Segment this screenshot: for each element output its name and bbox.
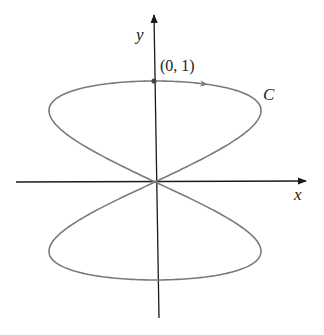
y-axis <box>154 15 159 318</box>
figure-canvas: y x (0, 1) C <box>0 0 324 335</box>
point-label: (0, 1) <box>160 57 195 75</box>
x-axis <box>16 181 306 182</box>
y-axis-label: y <box>134 25 144 44</box>
point-0-1 <box>151 78 156 83</box>
x-axis-label: x <box>293 185 302 204</box>
curve-label: C <box>263 85 275 104</box>
